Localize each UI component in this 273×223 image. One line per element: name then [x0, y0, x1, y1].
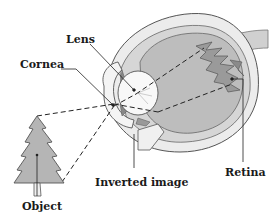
eye-diagram-svg: [0, 0, 273, 223]
eye-diagram: Lens Cornea Retina Inverted image Object: [0, 0, 273, 223]
label-lens: Lens: [66, 34, 95, 45]
label-object: Object: [22, 201, 62, 212]
label-inverted-image: Inverted image: [95, 177, 189, 188]
label-retina: Retina: [225, 167, 266, 178]
label-cornea: Cornea: [20, 59, 64, 70]
object-tree: [14, 116, 64, 196]
